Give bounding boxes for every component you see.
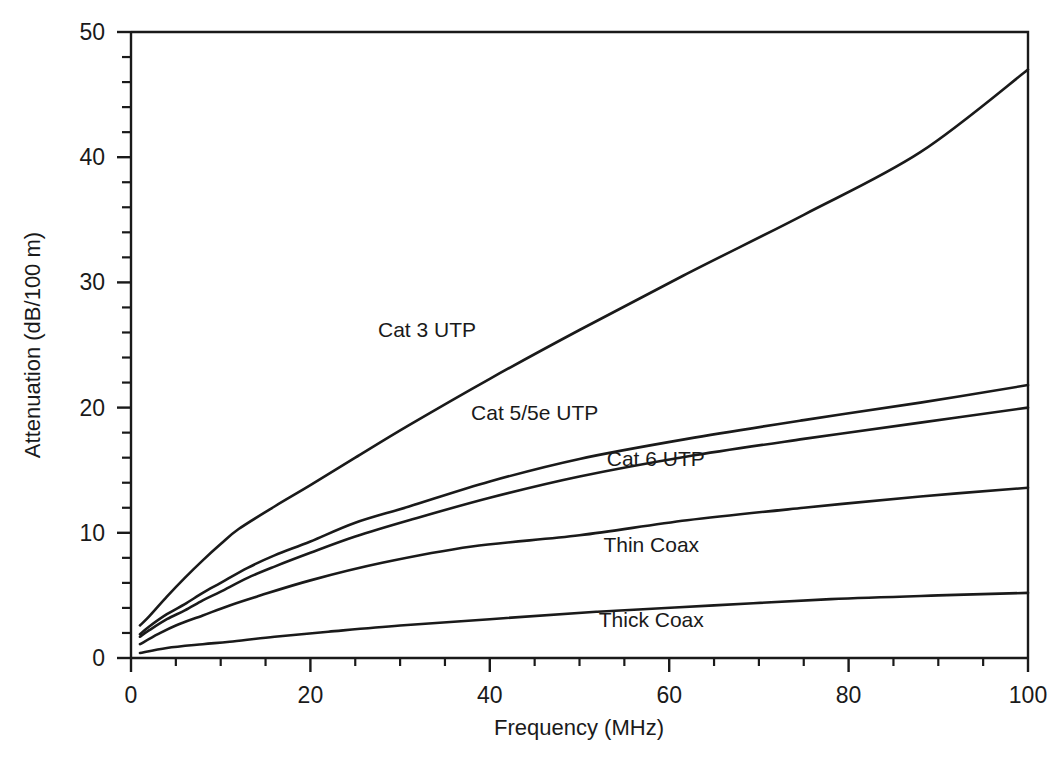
x-axis-ticks — [131, 658, 1028, 672]
y-tick-label: 30 — [79, 269, 105, 295]
figure-container: 020406080100 01020304050 Cat 3 UTPCat 5/… — [0, 0, 1064, 782]
series-label-cat-3-utp: Cat 3 UTP — [378, 318, 476, 341]
x-axis-tick-labels: 020406080100 — [125, 682, 1048, 708]
y-tick-label: 40 — [79, 144, 105, 170]
plot-frame — [131, 32, 1028, 658]
attenuation-vs-frequency-chart: 020406080100 01020304050 Cat 3 UTPCat 5/… — [0, 0, 1064, 782]
y-tick-label: 20 — [79, 395, 105, 421]
y-axis-tick-labels: 01020304050 — [79, 19, 105, 671]
series-label-cat-5-5e-utp: Cat 5/5e UTP — [471, 401, 598, 424]
x-tick-label: 80 — [836, 682, 862, 708]
series-label-thin-coax: Thin Coax — [603, 533, 699, 556]
x-axis-title: Frequency (MHz) — [494, 715, 664, 740]
curve-cat-6-utp — [140, 408, 1028, 637]
y-tick-label: 50 — [79, 19, 105, 45]
series-label-cat-6-utp: Cat 6 UTP — [607, 447, 705, 470]
y-axis-ticks — [117, 32, 131, 658]
curve-thick-coax — [140, 593, 1028, 653]
curve-cat-3-utp — [140, 70, 1028, 626]
x-tick-label: 60 — [656, 682, 682, 708]
x-tick-label: 100 — [1009, 682, 1047, 708]
data-series-curves — [140, 70, 1028, 653]
y-axis-title: Attenuation (dB/100 m) — [20, 232, 45, 458]
series-label-thick-coax: Thick Coax — [599, 608, 705, 631]
x-tick-label: 20 — [298, 682, 324, 708]
plot-border-top-right — [131, 32, 1028, 658]
series-annotations: Cat 3 UTPCat 5/5e UTPCat 6 UTPThin CoaxT… — [378, 318, 705, 630]
x-tick-label: 0 — [125, 682, 138, 708]
x-tick-label: 40 — [477, 682, 503, 708]
y-tick-label: 10 — [79, 520, 105, 546]
y-tick-label: 0 — [92, 645, 105, 671]
